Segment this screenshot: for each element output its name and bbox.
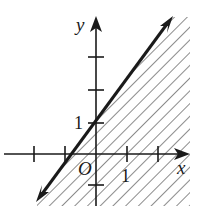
- shaded-region: [0, 0, 197, 212]
- y-axis-label: y: [74, 14, 85, 35]
- y-tick-label-1: 1: [74, 113, 83, 133]
- origin-label: O: [78, 158, 92, 179]
- x-axis-label: x: [176, 157, 186, 178]
- coordinate-graph: y x O 1 1: [0, 0, 197, 212]
- x-tick-label-1: 1: [121, 166, 130, 186]
